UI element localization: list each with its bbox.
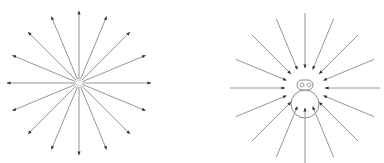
- arrow: [82, 32, 130, 80]
- arrow: [13, 55, 76, 81]
- arrow: [83, 85, 146, 111]
- arrow: [81, 17, 107, 80]
- arrow: [13, 85, 76, 111]
- arrow: [81, 87, 107, 150]
- arrow: [82, 86, 130, 134]
- arrow: [313, 107, 334, 158]
- arrow: [324, 59, 375, 80]
- outward-center-point: [76, 80, 82, 86]
- arrow: [236, 59, 287, 80]
- diagram-canvas: [0, 0, 384, 163]
- arrow: [51, 17, 77, 80]
- arrow: [83, 55, 146, 81]
- arrow: [28, 32, 76, 80]
- arrow: [51, 87, 77, 150]
- arrow: [236, 96, 287, 117]
- arrow: [276, 107, 297, 158]
- arrow: [313, 19, 334, 70]
- arrow: [28, 86, 76, 134]
- arrow: [324, 96, 375, 117]
- arrow: [276, 19, 297, 70]
